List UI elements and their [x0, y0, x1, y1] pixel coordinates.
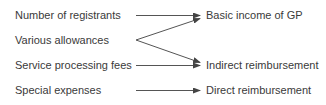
connector-layer: [0, 0, 326, 105]
flow-diagram: Number of registrants Various allowances…: [0, 0, 326, 105]
arrow-allowances-to-basic-income: [136, 19, 200, 41]
arrow-allowances-to-indirect: [136, 40, 200, 63]
